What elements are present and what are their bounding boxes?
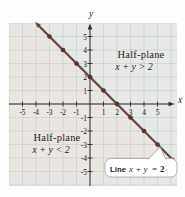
lower-half-plane-inequality: x + y < 2: [31, 144, 69, 155]
lower-half-plane-label: Half-plane: [34, 132, 81, 143]
line-point: [142, 129, 147, 134]
line-callout-word: Line: [110, 165, 127, 174]
x-tick-label: -4: [33, 108, 39, 117]
upper-half-plane-inequality: x + y > 2: [114, 61, 152, 72]
coordinate-plane: -5-4-3-2-11234554321-1-2-3-4-5 Half-plan…: [0, 0, 185, 197]
x-tick-label: 4: [142, 108, 146, 117]
line-callout-value: 2: [160, 164, 165, 174]
line-callout-equals: =: [152, 164, 157, 174]
line-point: [88, 75, 93, 80]
y-tick-label: 1: [83, 87, 87, 96]
line-point: [128, 115, 133, 120]
y-tick-label: 5: [83, 33, 87, 42]
line-callout-equation: x + y: [128, 164, 148, 174]
line-point: [47, 34, 52, 39]
y-tick-label: 4: [83, 46, 87, 55]
y-tick-label: -2: [81, 127, 87, 136]
line-point: [115, 102, 120, 107]
y-tick-label: -4: [81, 154, 87, 163]
y-tick-label: 3: [83, 60, 87, 69]
inequality-graph-figure: -5-4-3-2-11234554321-1-2-3-4-5 Half-plan…: [0, 0, 185, 197]
y-tick-label: -5: [81, 168, 87, 177]
x-tick-label: -3: [46, 108, 52, 117]
x-axis-label: x: [177, 95, 183, 105]
x-tick-label: -2: [60, 108, 66, 117]
line-point: [74, 61, 79, 66]
x-tick-label: 5: [156, 108, 160, 117]
line-point: [155, 142, 160, 147]
y-tick-label: -1: [81, 114, 87, 123]
y-tick-label: -3: [81, 141, 87, 150]
line-point: [101, 88, 106, 93]
x-tick-label: -1: [73, 108, 79, 117]
y-axis-label: y: [88, 9, 94, 19]
upper-half-plane-label: Half-plane: [118, 49, 165, 60]
x-tick-label: -5: [19, 108, 25, 117]
x-tick-label: 2: [115, 108, 119, 117]
line-point: [61, 48, 66, 53]
x-tick-label: 1: [102, 108, 106, 117]
